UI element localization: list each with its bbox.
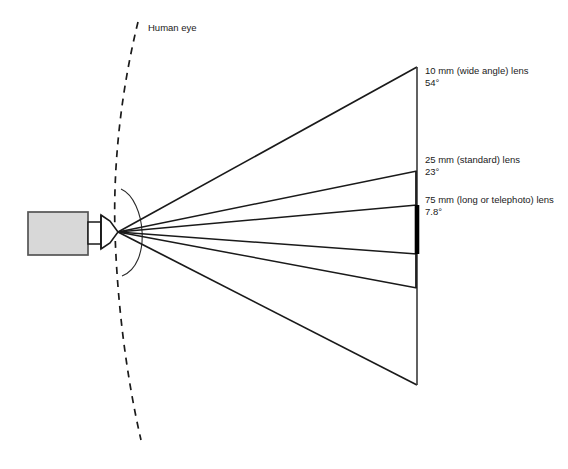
ray-wide-angle-upper (118, 67, 417, 232)
telephoto-label-line1: 75 mm (long or telephoto) lens (425, 194, 554, 205)
diagram-canvas: Human eye 10 mm (wide angle) lens 54° 25… (0, 0, 568, 469)
wide-angle-label-angle: 54° (425, 77, 440, 88)
ray-telephoto-upper (118, 205, 417, 232)
standard-label-line1: 25 mm (standard) lens (425, 154, 520, 165)
telephoto-label-angle: 7.8° (425, 206, 442, 217)
standard-label-angle: 23° (425, 166, 440, 177)
camera-body (28, 212, 88, 255)
camera-lens-barrel (88, 222, 101, 244)
lens-angle-of-view-diagram: Human eye 10 mm (wide angle) lens 54° 25… (0, 0, 568, 469)
human-eye-label: Human eye (148, 22, 197, 33)
ray-wide-angle-lower (118, 232, 417, 385)
wide-angle-label-line1: 10 mm (wide angle) lens (425, 65, 529, 76)
ray-standard-upper (118, 171, 417, 232)
ray-telephoto-lower (118, 232, 417, 254)
ray-standard-lower (118, 232, 417, 288)
